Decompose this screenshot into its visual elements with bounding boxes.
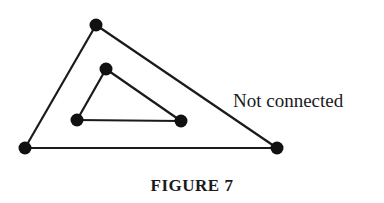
figure-caption: FIGURE 7 xyxy=(0,176,384,196)
inner-vertex xyxy=(100,63,113,76)
inner-triangle xyxy=(71,63,188,128)
inner-vertex xyxy=(175,115,188,128)
inner-edge xyxy=(106,69,181,121)
outer-vertex xyxy=(19,142,32,155)
inner-vertex xyxy=(71,114,84,127)
outer-edge xyxy=(96,25,277,148)
outer-edge xyxy=(25,25,96,148)
outer-vertex xyxy=(90,19,103,32)
not-connected-label: Not connected xyxy=(233,90,343,112)
outer-triangle xyxy=(19,19,284,155)
outer-vertex xyxy=(271,142,284,155)
inner-edge xyxy=(77,69,106,120)
inner-edge xyxy=(77,120,181,121)
